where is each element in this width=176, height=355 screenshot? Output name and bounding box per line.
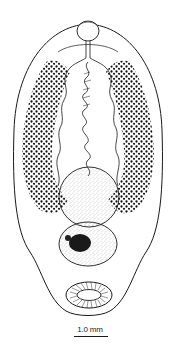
scale-bar-label: 1.0 mm xyxy=(72,325,108,334)
intestinal-cecum-left xyxy=(57,41,86,186)
tegument-inner-line xyxy=(58,45,118,53)
uterus xyxy=(82,62,90,176)
intestinal-cecum-right xyxy=(90,41,119,186)
anterior-testis xyxy=(59,167,119,227)
specimen-illustration xyxy=(0,0,176,355)
scale-bar xyxy=(74,336,108,337)
ovary xyxy=(69,234,91,252)
